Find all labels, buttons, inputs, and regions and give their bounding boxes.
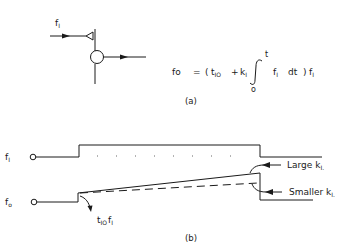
equation-lhs: fo [172, 67, 181, 77]
equation-factor: fI [309, 67, 314, 78]
equation-integrand: fI [273, 67, 278, 78]
equation: fo = ( tIO + kI t o fI dt ) fI [172, 50, 314, 94]
fo-smaller-ki-dashed-line [80, 183, 258, 193]
integral-lower-limit: o [251, 85, 256, 94]
gain-triangle-icon [86, 32, 93, 40]
equation-tio: tIO [211, 67, 221, 78]
panel-a: fI fo = ( tIO + kI t o fI dt ) fI [50, 18, 314, 106]
input-label-fi: fI [55, 18, 60, 29]
equation-ki: kI [240, 67, 247, 78]
large-ki-arrow-icon [262, 162, 270, 168]
fo-terminal-circle-icon [31, 199, 37, 205]
equation-open-paren: ( [205, 67, 209, 77]
smaller-ki-label: Smaller kI. [289, 187, 335, 198]
fo-label: fo [5, 197, 12, 208]
output-arrow-icon [120, 55, 128, 60]
integral-upper-limit: t [265, 50, 268, 59]
panel-b: fI fo tIOfI Large kI. Smaller kI. (b) [5, 145, 335, 243]
fi-pulse-waveform [36, 145, 322, 157]
smaller-ki-leader [252, 184, 282, 192]
fi-label: fI [5, 152, 10, 163]
caption-a: (a) [185, 96, 197, 106]
tio-arrow-icon [88, 206, 93, 213]
equation-close-paren: ) [303, 67, 307, 77]
equation-plus: + [231, 67, 239, 77]
tio-fi-annotation: tIOfI [97, 215, 113, 226]
caption-b: (b) [185, 233, 197, 243]
fi-terminal-circle-icon [30, 154, 36, 160]
smaller-ki-arrow-icon [265, 189, 273, 195]
equation-equals: = [193, 67, 201, 77]
equation-dt: dt [288, 67, 298, 77]
integral-sign-icon [250, 60, 262, 84]
integrator-node-circle-icon [91, 51, 104, 64]
large-ki-label: Large kI. [287, 160, 324, 171]
input-arrow-icon [62, 34, 70, 39]
integrator-diagram: fI fo = ( tIO + kI t o fI dt ) fI [0, 0, 349, 250]
